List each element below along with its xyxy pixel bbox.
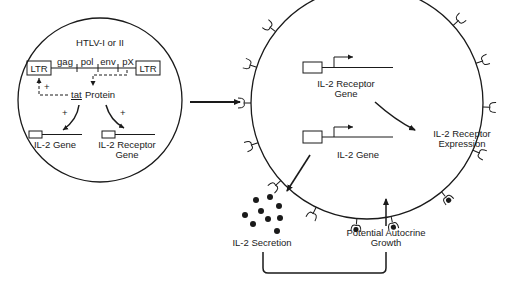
cell-membrane: [251, 0, 483, 219]
ltr-right-label: LTR: [139, 63, 156, 74]
il2-promoter-arrow: [334, 127, 353, 137]
htlv-panel: HTLV-I or II LTR LTR gag pol env pX tat …: [18, 18, 182, 182]
htlv-title: HTLV-I or II: [76, 37, 124, 48]
gene-px: pX: [122, 56, 134, 67]
receptor-gene-label-2: Gene: [115, 149, 138, 160]
autocrine-label-2: Growth: [371, 237, 402, 248]
cell-receptor-gene-box: [303, 62, 322, 73]
plus-ltr: +: [44, 81, 50, 92]
il2-gene-label: IL-2 Gene: [34, 139, 76, 150]
il2-molecules: [242, 194, 283, 234]
t-cell: IL-2 Receptor Gene IL-2 Gene: [238, 0, 496, 233]
receptors-bound: [351, 189, 454, 233]
px-to-protein-arrow: [93, 70, 127, 86]
gene-gag: gag: [57, 56, 73, 67]
htlv-il2-diagram: HTLV-I or II LTR LTR gag pol env pX tat …: [0, 0, 507, 286]
plus-il2: +: [62, 107, 68, 118]
receptor-expression-arrow: [375, 102, 415, 130]
cell-receptor-gene-label-2: Gene: [334, 88, 357, 99]
il2-gene-box: [29, 131, 42, 138]
feedback-loop: [263, 252, 386, 273]
plus-receptor: +: [120, 107, 126, 118]
receptor-promoter-arrow: [334, 57, 353, 68]
cell-il2-gene-box: [303, 131, 322, 143]
secretion-label: IL-2 Secretion: [232, 237, 291, 248]
gene-env: env: [100, 56, 116, 67]
protein-label: Protein: [85, 89, 115, 100]
gene-pol: pol: [81, 56, 94, 67]
ltr-left-label: LTR: [30, 63, 47, 74]
secretion-arrow: [287, 155, 310, 191]
cell-il2-gene-label: IL-2 Gene: [337, 149, 379, 160]
receptor-gene-box: [102, 131, 115, 138]
tat-label: tat: [71, 89, 82, 100]
receptors-empty: [238, 0, 496, 221]
receptor-expression-label-2: Expression: [439, 138, 486, 149]
